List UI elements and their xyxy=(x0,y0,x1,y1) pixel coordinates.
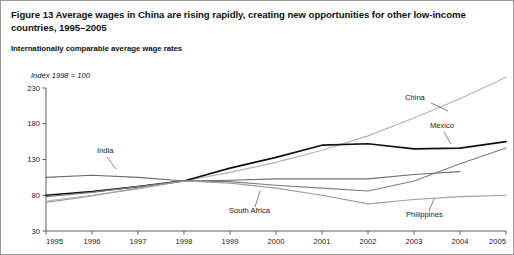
y-tick-label: 180 xyxy=(27,119,40,128)
series-label-mexico: Mexico xyxy=(430,121,454,130)
x-axis: 1995199619971998199920002001200220032004… xyxy=(46,231,506,246)
x-tick-label: 1998 xyxy=(176,237,193,246)
series-line-mexico xyxy=(46,142,506,196)
series-label-philippines: Philippines xyxy=(406,210,443,219)
series-label-india: India xyxy=(97,146,114,155)
y-tick-label: 230 xyxy=(27,84,40,93)
x-tick-label: 1996 xyxy=(84,237,101,246)
series-line-philippines xyxy=(46,181,506,204)
leader-line-india xyxy=(107,157,116,169)
y-tick-label: 80 xyxy=(32,191,40,200)
x-tick-label: 1995 xyxy=(46,237,63,246)
y-axis: 3080130180230 xyxy=(27,84,46,236)
y-tick-label: 30 xyxy=(32,227,40,236)
x-tick-label: 2003 xyxy=(406,237,423,246)
x-tick-label: 2000 xyxy=(268,237,285,246)
y-tick-label: 130 xyxy=(27,155,40,164)
series-labels: ChinaMexicoIndiaSouth AfricaPhilippines xyxy=(97,93,454,219)
line-chart-svg: 3080130180230 19951996199719981999200020… xyxy=(1,1,514,255)
x-tick-label: 1997 xyxy=(130,237,147,246)
chart-plot-area: 3080130180230 19951996199719981999200020… xyxy=(1,1,514,255)
series-line-india xyxy=(46,172,460,181)
series-label-china: China xyxy=(405,93,426,102)
figure-panel: Figure 13 Average wages in China are ris… xyxy=(0,0,514,255)
x-tick-label: 1999 xyxy=(222,237,239,246)
x-tick-label: 2005 xyxy=(489,237,506,246)
series-lines xyxy=(46,77,506,204)
x-tick-label: 2002 xyxy=(360,237,377,246)
leader-line-mexico xyxy=(444,132,451,144)
x-tick-label: 2004 xyxy=(452,237,469,246)
series-line-south-africa xyxy=(46,148,506,197)
leader-line-south-africa xyxy=(255,191,260,207)
series-label-south-africa: South Africa xyxy=(229,206,271,215)
series-line-china xyxy=(46,77,506,201)
x-tick-label: 2001 xyxy=(314,237,331,246)
